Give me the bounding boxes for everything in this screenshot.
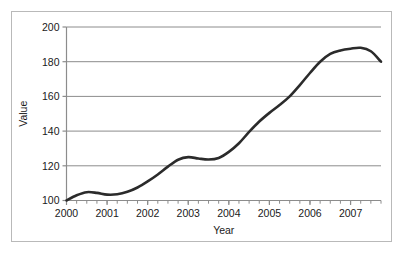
y-tick-label: 200 (42, 21, 60, 33)
x-tick-label: 2005 (258, 207, 282, 219)
y-tick-label: 120 (42, 160, 60, 172)
x-tick-label: 2000 (55, 207, 79, 219)
y-axis-title: Value (17, 101, 29, 127)
x-tick-label: 2006 (298, 207, 322, 219)
data-series-line (67, 48, 382, 201)
chart-figure: 100120140160180200 200020012002200320042… (0, 0, 403, 259)
y-tick-label: 140 (42, 125, 60, 137)
x-tick-label: 2003 (177, 207, 201, 219)
x-tick-label: 2001 (95, 207, 119, 219)
y-tick-label: 100 (42, 194, 60, 206)
x-tick-labels-group: 20002001200220032004200520062007 (55, 207, 363, 219)
x-tick-label: 2004 (217, 207, 241, 219)
y-tick-labels-group: 100120140160180200 (42, 21, 60, 207)
x-axis-title: Year (213, 224, 235, 236)
x-tick-label: 2007 (339, 207, 363, 219)
x-tick-label: 2002 (136, 207, 160, 219)
line-chart: 100120140160180200 200020012002200320042… (0, 0, 403, 259)
y-tick-label: 180 (42, 56, 60, 68)
y-tick-label: 160 (42, 90, 60, 102)
